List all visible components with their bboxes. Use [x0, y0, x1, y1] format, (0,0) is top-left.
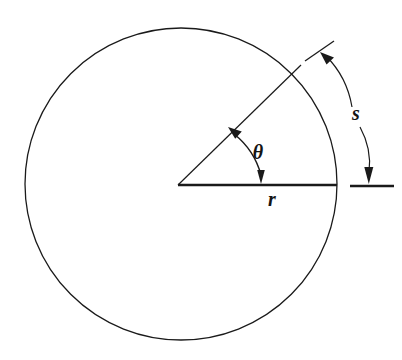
radius-line-angled — [178, 65, 301, 185]
circle-arc-diagram: θ r s — [0, 0, 402, 360]
radius-label-r: r — [268, 188, 276, 210]
theta-arrowhead-lower — [257, 170, 265, 184]
arc-s-lower-leader — [360, 127, 370, 172]
arc-s-lower-arrowhead — [364, 167, 373, 184]
figure-canvas: θ r s — [0, 0, 402, 360]
angle-label-theta: θ — [253, 141, 264, 163]
arc-label-s: s — [351, 102, 360, 124]
arc-s-upper-leader — [326, 56, 352, 107]
